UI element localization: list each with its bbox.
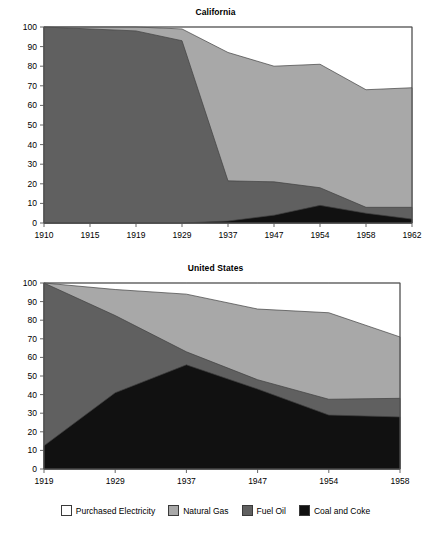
x-axis-tick-label: 1954 <box>319 476 338 486</box>
y-axis-tick-label: 70 <box>28 334 38 344</box>
legend-item-purchased-electricity: Purchased Electricity <box>61 505 155 516</box>
x-axis-tick-label: 1954 <box>311 230 330 240</box>
x-axis-tick-label: 1937 <box>177 476 196 486</box>
x-axis-tick-label: 1919 <box>35 476 54 486</box>
y-axis-tick-label: 40 <box>28 140 38 150</box>
chart-panel-california: California 01020304050607080901001910191… <box>0 0 431 252</box>
y-axis-tick-label: 100 <box>23 278 37 288</box>
x-axis-tick-label: 1937 <box>219 230 238 240</box>
y-axis-tick-label: 30 <box>28 159 38 169</box>
x-axis-tick-label: 1910 <box>35 230 54 240</box>
legend-label: Fuel Oil <box>257 506 286 516</box>
x-axis-tick-label: 1958 <box>357 230 376 240</box>
y-axis-tick-label: 0 <box>32 464 37 474</box>
y-axis-tick-label: 80 <box>28 315 38 325</box>
y-axis-tick-label: 50 <box>28 371 38 381</box>
x-axis-tick-label: 1919 <box>127 230 146 240</box>
legend-swatch-fuel-oil <box>242 505 253 516</box>
y-axis-tick-label: 40 <box>28 390 38 400</box>
legend-item-coal-and-coke: Coal and Coke <box>299 505 370 516</box>
y-axis-tick-label: 20 <box>28 179 38 189</box>
y-axis-tick-label: 60 <box>28 352 38 362</box>
y-axis-tick-label: 10 <box>28 198 38 208</box>
x-axis-tick-label: 1947 <box>248 476 267 486</box>
legend-item-natural-gas: Natural Gas <box>168 505 228 516</box>
x-axis-tick-label: 1929 <box>106 476 125 486</box>
page-title-united-states: United States <box>0 256 431 273</box>
plot-area-united-states: 0102030405060708090100191919291937194719… <box>0 273 431 503</box>
y-axis-tick-label: 90 <box>28 297 38 307</box>
x-axis-tick-label: 1958 <box>391 476 410 486</box>
legend-swatch-purchased-electricity <box>61 505 72 516</box>
chart-legend: Purchased ElectricityNatural GasFuel Oil… <box>0 505 431 516</box>
page-title-california: California <box>0 0 431 17</box>
x-axis-tick-label: 1929 <box>173 230 192 240</box>
area-chart-united-states: 0102030405060708090100191919291937194719… <box>0 273 431 503</box>
x-axis-tick-label: 1947 <box>265 230 284 240</box>
legend-swatch-coal-and-coke <box>299 505 310 516</box>
figure-root: California 01020304050607080901001910191… <box>0 0 431 544</box>
chart-panel-united-states: United States 01020304050607080901001919… <box>0 256 431 498</box>
legend-swatch-natural-gas <box>168 505 179 516</box>
y-axis-tick-label: 50 <box>28 120 38 130</box>
x-axis-tick-label: 1915 <box>81 230 100 240</box>
x-axis-tick-label: 1962 <box>403 230 422 240</box>
legend-label: Coal and Coke <box>314 506 370 516</box>
y-axis-tick-label: 70 <box>28 81 38 91</box>
y-axis-tick-label: 80 <box>28 61 38 71</box>
legend-item-fuel-oil: Fuel Oil <box>242 505 286 516</box>
plot-area-california: 0102030405060708090100191019151919192919… <box>0 17 431 257</box>
y-axis-tick-label: 20 <box>28 427 38 437</box>
legend-label: Natural Gas <box>183 506 228 516</box>
y-axis-tick-label: 0 <box>32 218 37 228</box>
y-axis-tick-label: 30 <box>28 408 38 418</box>
y-axis-tick-label: 90 <box>28 42 38 52</box>
y-axis-tick-label: 10 <box>28 445 38 455</box>
area-chart-california: 0102030405060708090100191019151919192919… <box>0 17 431 257</box>
y-axis-tick-label: 60 <box>28 100 38 110</box>
y-axis-tick-label: 100 <box>23 22 37 32</box>
legend-label: Purchased Electricity <box>76 506 155 516</box>
